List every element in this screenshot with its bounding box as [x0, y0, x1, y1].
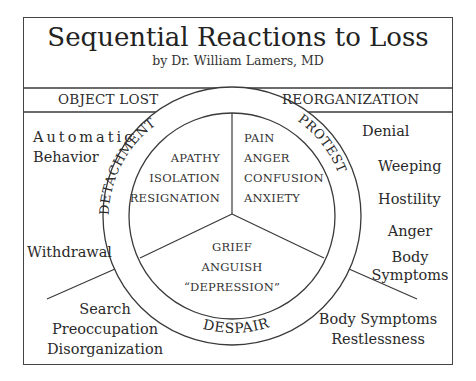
band-label-object-lost: OBJECT LOST: [58, 93, 158, 107]
page-subtitle: by Dr. William Lamers, MD: [0, 55, 476, 68]
segment-protest-item: PAIN: [244, 133, 274, 145]
segment-despair-item: ANGUISH: [152, 262, 312, 274]
page-title: Sequential Reactions to Loss: [0, 24, 476, 50]
outer-right-lower-line: Body Symptoms: [318, 312, 438, 327]
outer-right-upper-line: Symptoms: [370, 268, 450, 283]
outer-left-upper-line: Behavior: [33, 150, 99, 165]
outer-right-upper-line: Anger: [370, 224, 450, 239]
outer-right-upper-line: Denial: [362, 124, 409, 139]
outer-right-upper-line: Hostility: [378, 192, 441, 207]
segment-detachment-item: RESIGNATION: [130, 193, 220, 205]
spoke-left-outer: [47, 269, 115, 299]
segment-detachment-item: ISOLATION: [149, 173, 220, 185]
segment-despair-item: GRIEF: [152, 242, 312, 254]
segment-protest-item: ANGER: [244, 153, 290, 165]
segment-despair-item: “DEPRESSION”: [152, 282, 312, 294]
outer-right-upper-line: Body: [370, 250, 450, 265]
segment-detachment-item: APATHY: [171, 153, 220, 165]
outer-left-middle: Withdrawal: [27, 245, 112, 260]
outer-left-lower-line: Disorganization: [40, 342, 170, 357]
outer-left-upper-line: Automatic: [33, 130, 135, 145]
outer-left-lower-line: Search: [40, 302, 170, 317]
outer-right-upper-line: Weeping: [378, 159, 441, 174]
segment-protest-item: ANXIETY: [244, 193, 300, 205]
band-label-reorganization: REORGANIZATION: [282, 93, 419, 107]
outer-left-lower-line: Preoccupation: [40, 322, 170, 337]
segment-protest-item: CONFUSION: [244, 173, 324, 185]
outer-right-lower-line: Restlessness: [318, 332, 438, 347]
